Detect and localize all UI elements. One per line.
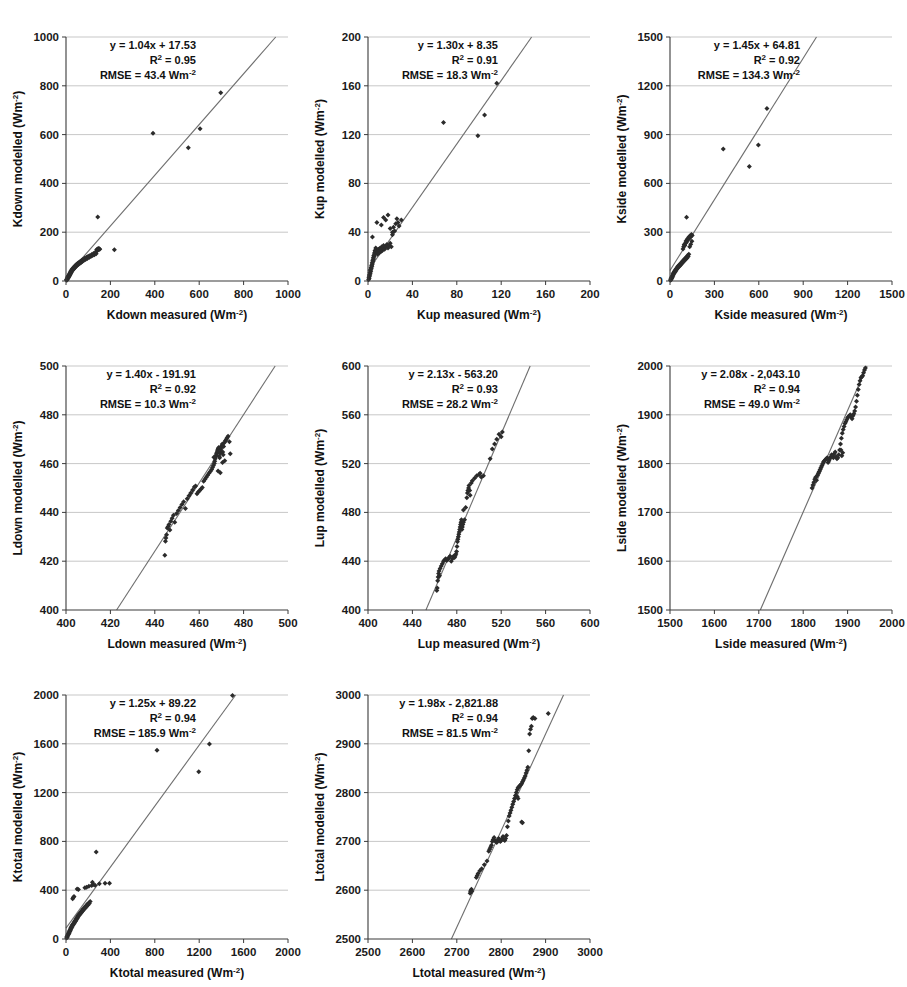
x-tick-label: 600 (749, 288, 768, 300)
x-axis-title: Lup measured (Wm-2) (418, 637, 540, 651)
rmse-value: RMSE = 18.3 Wm-2 (402, 68, 499, 81)
y-tick-label: 1600 (33, 738, 59, 750)
data-points (668, 106, 769, 283)
x-axis-title: Lside measured (Wm-2) (715, 637, 847, 651)
y-tick-label: 600 (40, 129, 59, 141)
data-points (810, 365, 868, 490)
r-squared-value: R2 = 0.93 (452, 382, 498, 395)
x-tick-label: 560 (536, 617, 555, 629)
x-tick-label: 2000 (275, 946, 301, 958)
y-tick-label: 2500 (335, 933, 361, 945)
x-tick-label: 80 (450, 288, 463, 300)
y-tick-label: 2000 (33, 689, 59, 701)
x-tick-label: 480 (447, 617, 466, 629)
x-tick-label: 1500 (879, 288, 905, 300)
y-tick-label: 800 (40, 835, 59, 847)
x-tick-label: 2700 (444, 946, 470, 958)
y-tick-label: 1900 (637, 409, 663, 421)
y-tick-label: 200 (342, 31, 361, 43)
y-tick-label: 800 (40, 80, 59, 92)
data-point (94, 849, 99, 854)
rmse-value: RMSE = 43.4 Wm-2 (100, 68, 197, 81)
x-tick-label: 460 (190, 617, 209, 629)
x-tick-label: 600 (190, 288, 209, 300)
y-tick-label: 400 (342, 604, 361, 616)
data-point (385, 213, 390, 218)
y-tick-label: 400 (40, 884, 59, 896)
y-axis-title: Kdown modelled (Wm-2) (11, 91, 25, 227)
y-tick-label: 2600 (335, 884, 361, 896)
r-squared-value: R2 = 0.91 (452, 53, 498, 66)
y-tick-label: 120 (342, 129, 361, 141)
data-points (64, 90, 223, 283)
x-axis-title: Kup measured (Wm-2) (417, 308, 541, 322)
data-points (434, 429, 504, 593)
x-tick-label: 1500 (657, 617, 683, 629)
data-point (853, 404, 858, 409)
regression-equation: y = 2.13x - 563.20 (408, 368, 498, 380)
r-squared-value: R2 = 0.94 (150, 711, 197, 724)
data-point (374, 220, 379, 225)
y-tick-label: 500 (40, 360, 59, 372)
x-tick-label: 400 (358, 617, 377, 629)
y-tick-label: 1600 (637, 555, 663, 567)
regression-equation: y = 1.40x - 191.91 (106, 368, 196, 380)
regression-equation: y = 1.98x - 2,821.88 (399, 697, 498, 709)
x-tick-label: 1900 (835, 617, 861, 629)
x-tick-label: 420 (101, 617, 120, 629)
x-axis-title: Ktotal measured (Wm-2) (110, 966, 244, 980)
y-tick-label: 440 (342, 555, 361, 567)
rmse-value: RMSE = 10.3 Wm-2 (100, 397, 197, 410)
data-point (854, 399, 859, 404)
data-point (684, 215, 689, 220)
data-point (764, 106, 769, 111)
y-axis-title: Ldown modelled (Wm-2) (11, 420, 25, 555)
data-point (482, 113, 487, 118)
data-point (505, 824, 510, 829)
x-tick-label: 400 (145, 288, 164, 300)
y-tick-label: 560 (342, 409, 361, 421)
data-point (218, 90, 223, 95)
regression-equation: y = 1.25x + 89.22 (110, 697, 196, 709)
y-tick-label: 160 (342, 80, 361, 92)
x-tick-label: 500 (278, 617, 297, 629)
y-tick-label: 2000 (637, 360, 663, 372)
data-point (756, 143, 761, 148)
y-tick-label: 0 (355, 275, 361, 287)
data-point (455, 544, 460, 549)
panel-ktotal: 04008001200160020000400800120016002000Kt… (0, 658, 302, 987)
data-point (198, 126, 203, 131)
x-tick-label: 1700 (746, 617, 772, 629)
x-tick-label: 200 (580, 288, 599, 300)
y-tick-label: 1200 (33, 787, 59, 799)
rmse-value: RMSE = 185.9 Wm-2 (94, 726, 197, 739)
y-tick-label: 600 (644, 177, 663, 189)
x-tick-label: 900 (794, 288, 813, 300)
data-point (747, 164, 752, 169)
y-tick-label: 900 (644, 129, 663, 141)
x-tick-label: 800 (234, 288, 253, 300)
y-axis-title: Lside modelled (Wm-2) (615, 424, 629, 552)
x-tick-label: 520 (492, 617, 511, 629)
x-tick-label: 0 (63, 946, 69, 958)
r-squared-value: R2 = 0.92 (150, 382, 196, 395)
data-point (855, 393, 860, 398)
x-tick-label: 1600 (231, 946, 257, 958)
panel-kdown: 0200400600800100002004006008001000Kdown … (0, 0, 302, 329)
data-point (394, 216, 399, 221)
data-point (839, 436, 844, 441)
y-tick-label: 2700 (335, 835, 361, 847)
x-tick-label: 3000 (577, 946, 603, 958)
y-tick-label: 1800 (637, 458, 663, 470)
y-tick-label: 460 (40, 458, 59, 470)
y-tick-label: 40 (348, 226, 361, 238)
data-point (112, 247, 117, 252)
x-tick-label: 1800 (790, 617, 816, 629)
y-tick-label: 420 (40, 555, 59, 567)
data-point (95, 215, 100, 220)
regression-equation: y = 2.08x - 2,043.10 (701, 368, 800, 380)
rmse-value: RMSE = 28.2 Wm-2 (402, 397, 499, 410)
data-point (162, 553, 167, 558)
data-point (103, 881, 108, 886)
x-tick-label: 1600 (702, 617, 728, 629)
